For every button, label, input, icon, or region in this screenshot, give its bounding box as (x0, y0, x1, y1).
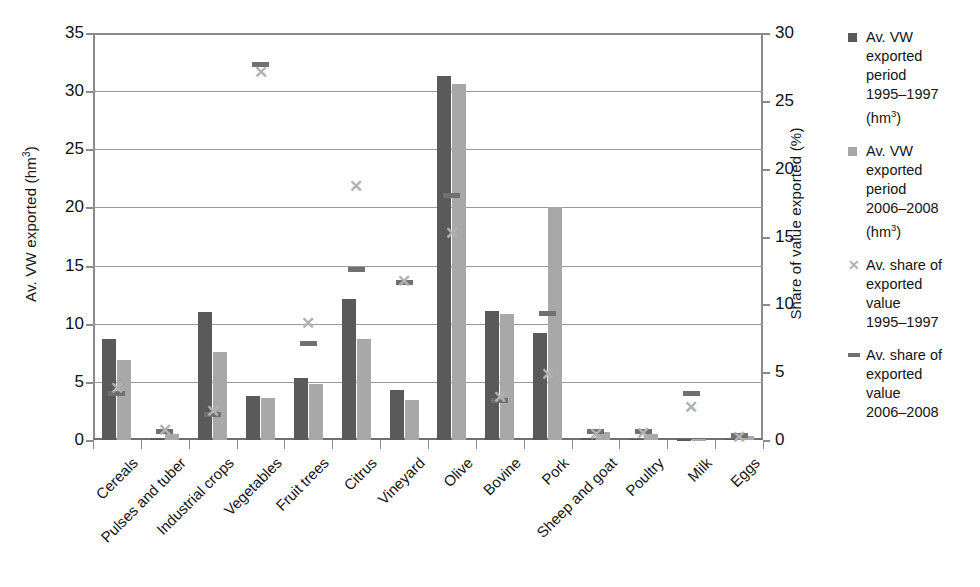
marker-share-2006-2008 (443, 193, 460, 198)
dash-marker-icon (848, 353, 860, 357)
bar-vw-2006-2008 (309, 384, 323, 440)
bar-vw-2006-2008 (548, 207, 562, 440)
x-axis-tick-mark (93, 440, 94, 449)
y-axis-left-tick-label: 30 (50, 82, 84, 99)
y-axis-left-tick-label: 20 (50, 198, 84, 215)
bar-vw-2006-2008 (692, 439, 706, 441)
x-axis-tick-mark (332, 440, 333, 449)
y-axis-right-tick-mark (763, 440, 770, 442)
y-axis-left-tick-mark (86, 266, 93, 268)
bar-vw-2006-2008 (452, 84, 466, 440)
x-axis-tick-mark (189, 440, 190, 449)
x-axis-tick-mark (476, 440, 477, 449)
legend-item-label: Av. share of exported value 2006–2008 (866, 346, 980, 422)
x-axis-tick-mark (428, 440, 429, 449)
x-axis-tick-mark (284, 440, 285, 449)
bar-vw-1995-1997 (677, 439, 691, 441)
x-axis-tick-mark (667, 440, 668, 449)
y-axis-left-tick-label: 5 (50, 373, 84, 390)
bar-vw-1995-1997 (246, 396, 260, 440)
marker-share-1995-1997: ✕ (301, 316, 316, 331)
legend-item-label: Av. share of exported value 1995–1997 (866, 256, 980, 332)
chart-figure: Av. VW exported (hm3) Share of value exp… (0, 0, 980, 587)
y-axis-right-tick-label: 0 (775, 431, 809, 448)
legend-label-tail: ) (896, 224, 901, 240)
marker-share-1995-1997: ✕ (588, 427, 603, 442)
marker-share-1995-1997: ✕ (492, 390, 507, 405)
y-axis-left-title-main: Av. VW exported (hm (22, 157, 39, 302)
y-axis-right-tick-mark (763, 237, 770, 239)
legend-item-label: Av. VW exported period 1995–1997 (hm3) (866, 28, 980, 128)
legend-item[interactable]: Av. share of exported value 2006–2008 (848, 346, 980, 422)
plot-area (93, 33, 763, 440)
x-axis-tick-mark (763, 440, 764, 449)
bar-vw-1995-1997 (485, 311, 499, 440)
bar-vw-2006-2008 (500, 314, 514, 440)
y-axis-left-tick-label: 25 (50, 140, 84, 157)
y-axis-right-tick-mark (763, 33, 770, 35)
legend-item[interactable]: Av. VW exported period 1995–1997 (hm3) (848, 28, 980, 128)
y-axis-left-tick-mark (86, 33, 93, 35)
gridline (93, 266, 763, 267)
bar-vw-2006-2008 (405, 400, 419, 440)
y-axis-left-title: Av. VW exported (hm3) (21, 54, 39, 394)
y-axis-right-tick-label: 15 (775, 228, 809, 245)
x-axis-tick-mark (141, 440, 142, 449)
gridline (93, 207, 763, 208)
y-axis-left-title-end: ) (22, 146, 39, 151)
y-axis-left-tick-label: 0 (50, 431, 84, 448)
marker-share-1995-1997: ✕ (732, 430, 747, 445)
bar-vw-1995-1997 (294, 378, 308, 440)
y-axis-right-tick-mark (763, 169, 770, 171)
y-axis-left-tick-mark (86, 440, 93, 442)
x-axis-tick-mark (715, 440, 716, 449)
bar-vw-2006-2008 (213, 352, 227, 440)
y-axis-left-tick-mark (86, 382, 93, 384)
marker-share-2006-2008 (348, 267, 365, 272)
bar-vw-2006-2008 (261, 398, 275, 440)
x-axis-tick-mark (380, 440, 381, 449)
y-axis-right-tick-label: 10 (775, 295, 809, 312)
y-axis-left-tick-mark (86, 207, 93, 209)
y-axis-left-tick-mark (86, 324, 93, 326)
y-axis-right-tick-mark (763, 304, 770, 306)
marker-share-1995-1997: ✕ (205, 404, 220, 419)
bar-vw-2006-2008 (357, 339, 371, 440)
gridline (93, 324, 763, 325)
legend-label-tail: ) (896, 110, 901, 126)
marker-share-1995-1997: ✕ (349, 179, 364, 194)
y-axis-right-tick-mark (763, 101, 770, 103)
gridline (93, 382, 763, 383)
gridline (93, 91, 763, 92)
y-axis-left-tick-label: 35 (50, 24, 84, 41)
y-axis-left-tick-label: 10 (50, 315, 84, 332)
marker-share-2006-2008 (539, 311, 556, 316)
chart-legend: Av. VW exported period 1995–1997 (hm3)Av… (848, 28, 980, 436)
legend-item[interactable]: Av. VW exported period 2006–2008 (hm3) (848, 142, 980, 242)
y-axis-right-tick-label: 5 (775, 363, 809, 380)
x-axis-tick-mark (524, 440, 525, 449)
marker-share-1995-1997: ✕ (636, 426, 651, 441)
legend-item-label: Av. VW exported period 2006–2008 (hm3) (866, 142, 980, 242)
legend-item[interactable]: ✕Av. share of exported value 1995–1997 (848, 256, 980, 332)
x-axis-tick-mark (572, 440, 573, 449)
y-axis-right-tick-label: 20 (775, 160, 809, 177)
bar-vw-2006-2008 (117, 360, 131, 440)
cross-marker-icon: ✕ (848, 256, 859, 274)
y-axis-right-tick-label: 25 (775, 92, 809, 109)
marker-share-1995-1997: ✕ (444, 226, 459, 241)
bar-vw-1995-1997 (342, 299, 356, 440)
bar-vw-1995-1997 (437, 76, 451, 440)
marker-share-1995-1997: ✕ (157, 423, 172, 438)
y-axis-right-tick-mark (763, 372, 770, 374)
marker-share-1995-1997: ✕ (253, 65, 268, 80)
y-axis-right-tick-label: 30 (775, 24, 809, 41)
marker-share-1995-1997: ✕ (109, 381, 124, 396)
marker-share-1995-1997: ✕ (540, 367, 555, 382)
x-axis-tick-mark (237, 440, 238, 449)
y-axis-left-tick-mark (86, 149, 93, 151)
y-axis-left-tick-label: 15 (50, 257, 84, 274)
y-axis-left-tick-mark (86, 91, 93, 93)
marker-share-1995-1997: ✕ (397, 274, 412, 289)
marker-share-1995-1997: ✕ (684, 400, 699, 415)
